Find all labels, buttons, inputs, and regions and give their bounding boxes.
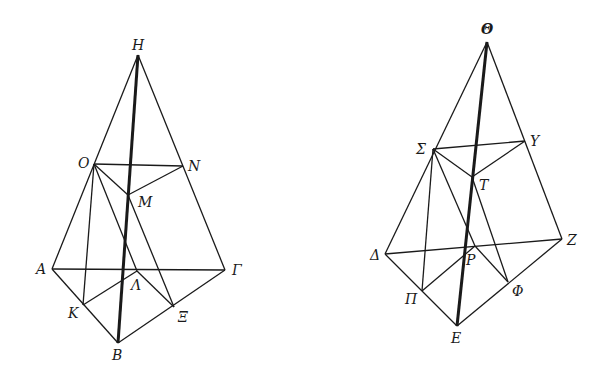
edge-TPhi: [472, 177, 508, 282]
label-O: O: [78, 155, 90, 171]
label-Sigma: Σ: [415, 141, 426, 157]
edge-OK: [83, 164, 94, 305]
edge-SigmaPi: [422, 149, 433, 291]
label-Pi: Π: [404, 291, 418, 307]
label-Delta: Δ: [369, 247, 380, 263]
label-Upsilon: Υ: [530, 133, 541, 149]
label-E: E: [450, 330, 461, 346]
edge-ON: [94, 164, 183, 166]
edge-NM: [128, 166, 183, 195]
label-A: A: [34, 261, 46, 277]
edge-AGamma: [52, 269, 225, 270]
label-H: H: [131, 37, 145, 53]
edge-PPhi: [475, 246, 508, 282]
edge-KLambda: [83, 271, 137, 305]
label-M: M: [137, 194, 153, 210]
label-T: T: [479, 177, 490, 193]
label-N: N: [187, 158, 201, 174]
edge-SigmaUpsilon: [433, 141, 525, 149]
label-Xi: Ξ: [177, 309, 188, 325]
edge-HGamma: [138, 55, 225, 270]
label-B: B: [111, 347, 122, 363]
pyramid-diagrams: H O N M A Γ Λ K Ξ B Θ Σ Υ T Δ Z P Π Φ E: [0, 0, 604, 382]
label-Gamma: Γ: [231, 262, 243, 278]
right-pyramid-figure: Θ Σ Υ T Δ Z P Π Φ E: [369, 21, 577, 346]
label-Z: Z: [566, 232, 577, 248]
label-P: P: [465, 252, 476, 268]
edge-ThetaDelta: [385, 42, 487, 254]
edge-LambdaXi: [137, 271, 174, 307]
label-K: K: [67, 305, 80, 321]
edge-UpsilonT: [472, 141, 525, 177]
label-Theta: Θ: [481, 21, 494, 37]
edge-DeltaE: [385, 254, 457, 326]
left-pyramid-figure: H O N M A Γ Λ K Ξ B: [34, 37, 243, 363]
label-Phi: Φ: [512, 283, 523, 299]
edge-OM: [94, 164, 128, 195]
label-Lambda: Λ: [129, 277, 141, 293]
